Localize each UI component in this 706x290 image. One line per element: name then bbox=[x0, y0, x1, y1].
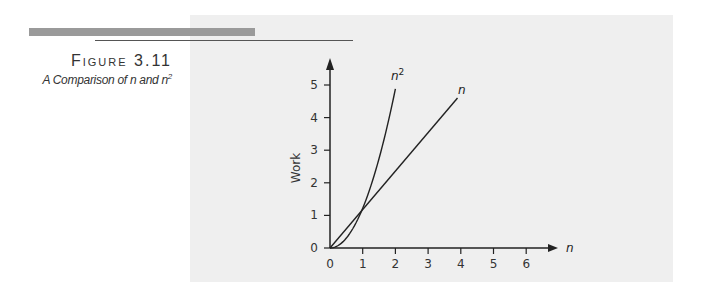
y-tick-label: 2 bbox=[310, 176, 318, 190]
y-tick-label: 4 bbox=[310, 111, 318, 125]
series-line-n bbox=[330, 98, 458, 248]
series-label-n: n bbox=[458, 83, 466, 97]
x-tick-label: 6 bbox=[522, 257, 530, 271]
x-axis-label: n bbox=[566, 241, 574, 255]
x-tick-label: 4 bbox=[457, 257, 465, 271]
y-tick-label: 5 bbox=[310, 78, 318, 92]
y-tick-label: 3 bbox=[310, 143, 318, 157]
chart: 0123456012345nWorkn2n bbox=[0, 0, 706, 290]
y-axis-label: Work bbox=[289, 153, 303, 183]
y-tick-label: 0 bbox=[310, 241, 318, 255]
x-tick-label: 1 bbox=[359, 257, 367, 271]
series-label-n-squared: n2 bbox=[391, 67, 404, 83]
x-tick-label: 3 bbox=[424, 257, 432, 271]
y-tick-label: 1 bbox=[310, 208, 318, 222]
series-line-n-squared bbox=[330, 89, 395, 248]
y-axis-arrow-icon bbox=[326, 58, 334, 70]
x-tick-label: 0 bbox=[326, 257, 334, 271]
x-tick-label: 2 bbox=[392, 257, 400, 271]
x-tick-label: 5 bbox=[490, 257, 498, 271]
x-axis-arrow-icon bbox=[548, 244, 558, 252]
